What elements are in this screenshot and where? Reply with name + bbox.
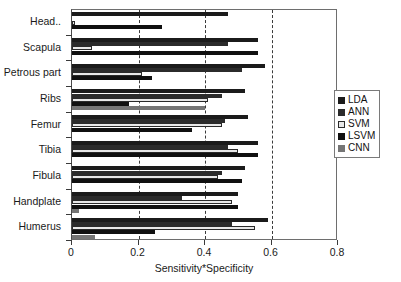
legend-item-label: SVM bbox=[348, 119, 370, 129]
bar-group bbox=[72, 164, 336, 190]
x-axis-tick-label: 0.2 bbox=[118, 246, 158, 258]
y-axis-tick bbox=[66, 86, 72, 87]
bar-chart: Head..ScapulaPetrous partRibsFemurTibiaF… bbox=[0, 0, 401, 282]
bar-ann bbox=[72, 42, 228, 46]
x-axis-tick-label: 0.4 bbox=[184, 246, 224, 258]
legend-swatch-icon bbox=[338, 109, 345, 116]
bar-cnn bbox=[72, 235, 95, 239]
bar-lsvm bbox=[72, 153, 258, 157]
x-axis-tick-label: 0 bbox=[51, 246, 91, 258]
bar-lsvm bbox=[72, 25, 162, 29]
x-axis-tick bbox=[204, 240, 205, 245]
bar-group bbox=[72, 138, 336, 164]
y-axis-label: Tibia bbox=[0, 144, 61, 155]
bar-lsvm bbox=[72, 76, 152, 80]
y-axis-tick bbox=[66, 137, 72, 138]
bar-lda bbox=[72, 12, 228, 16]
y-axis-tick bbox=[66, 35, 72, 36]
y-axis-label: Petrous part bbox=[0, 67, 61, 78]
y-axis-label: Fibula bbox=[0, 170, 61, 181]
bar-group bbox=[72, 87, 336, 113]
legend-item-label: CNN bbox=[348, 143, 370, 153]
legend-item-lsvm: LSVM bbox=[338, 130, 375, 142]
legend-item-lda: LDA bbox=[338, 94, 375, 106]
bar-lsvm bbox=[72, 51, 258, 55]
y-axis-label: Ribs bbox=[0, 93, 61, 104]
legend-swatch-icon bbox=[338, 133, 345, 140]
chart-legend: LDAANNSVMLSVMCNN bbox=[334, 90, 380, 158]
bar-group bbox=[72, 36, 336, 62]
bar-group bbox=[72, 10, 336, 36]
legend-swatch-icon bbox=[338, 97, 345, 104]
y-axis-label: Femur bbox=[0, 119, 61, 130]
legend-swatch-icon bbox=[338, 145, 345, 152]
bar-cnn bbox=[72, 106, 205, 110]
y-axis-tick bbox=[66, 214, 72, 215]
legend-item-ann: ANN bbox=[338, 106, 375, 118]
legend-item-cnn: CNN bbox=[338, 142, 375, 154]
x-axis-tick bbox=[71, 240, 72, 245]
bar-group bbox=[72, 190, 336, 216]
bar-lsvm bbox=[72, 128, 192, 132]
plot-area bbox=[71, 9, 337, 240]
y-axis-tick bbox=[66, 163, 72, 164]
bar-lsvm bbox=[72, 179, 242, 183]
legend-item-label: ANN bbox=[348, 107, 369, 117]
legend-item-label: LSVM bbox=[348, 131, 375, 141]
y-axis-label: Handplate bbox=[0, 196, 61, 207]
y-axis-label: Humerus bbox=[0, 221, 61, 232]
bar-lsvm bbox=[72, 205, 238, 209]
x-axis-tick bbox=[271, 240, 272, 245]
legend-item-label: LDA bbox=[348, 95, 367, 105]
x-axis-title: Sensitivity*Specificity bbox=[71, 262, 337, 274]
bar-group bbox=[72, 215, 336, 240]
y-axis-tick bbox=[66, 189, 72, 190]
y-axis-label: Scapula bbox=[0, 42, 61, 53]
y-axis-tick bbox=[66, 60, 72, 61]
x-axis-tick-label: 0.6 bbox=[251, 246, 291, 258]
x-axis-tick bbox=[138, 240, 139, 245]
legend-swatch-icon bbox=[338, 121, 345, 128]
y-axis-tick bbox=[66, 112, 72, 113]
bar-group bbox=[72, 113, 336, 139]
bar-cnn bbox=[72, 209, 79, 213]
x-axis-tick-label: 0.8 bbox=[317, 246, 357, 258]
y-axis-label: Head.. bbox=[0, 16, 61, 27]
legend-item-svm: SVM bbox=[338, 118, 375, 130]
bar-group bbox=[72, 61, 336, 87]
x-axis-tick bbox=[337, 240, 338, 245]
